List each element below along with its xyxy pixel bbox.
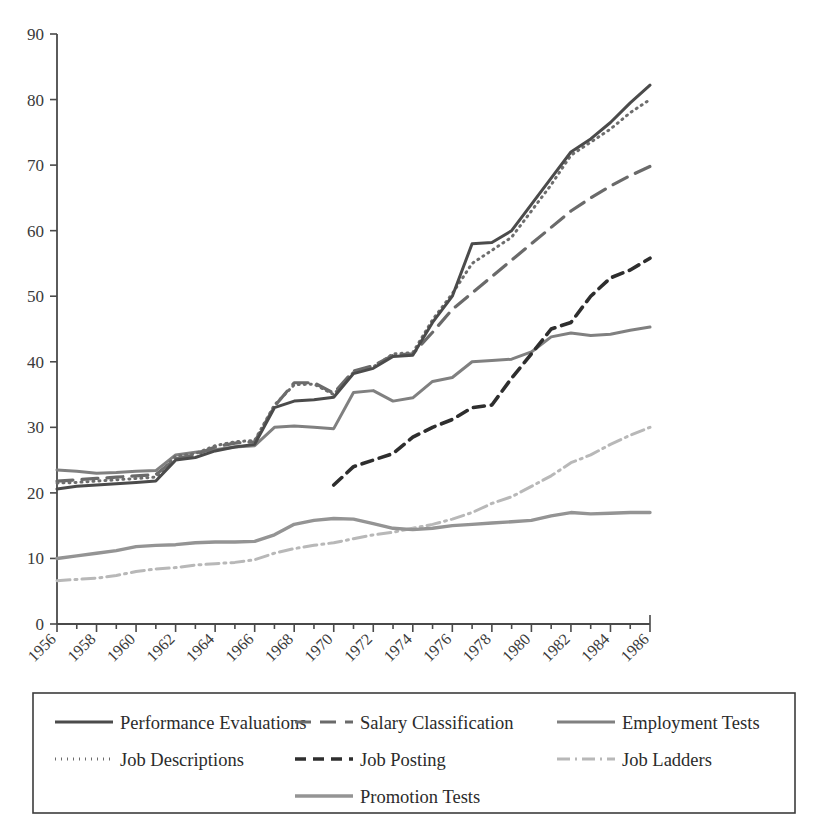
legend-label: Employment Tests (622, 713, 760, 733)
y-axis-tick-label: 30 (27, 418, 44, 437)
legend-label: Job Posting (360, 750, 446, 770)
chart-background (0, 0, 828, 828)
y-axis-tick-label: 50 (27, 287, 44, 306)
y-axis-tick-label: 0 (36, 615, 45, 634)
y-axis-tick-label: 80 (27, 91, 44, 110)
y-axis-tick-label: 40 (27, 353, 44, 372)
legend-label: Job Descriptions (120, 750, 244, 770)
chart-canvas: 0102030405060708090 19561958196019621964… (0, 0, 828, 828)
y-axis-tick-label: 90 (27, 25, 44, 44)
y-axis-tick-label: 20 (27, 484, 44, 503)
y-axis-tick-label: 10 (27, 549, 44, 568)
legend-label: Promotion Tests (360, 787, 480, 807)
legend-label: Salary Classification (360, 713, 514, 733)
y-axis-tick-label: 60 (27, 222, 44, 241)
legend-label: Job Ladders (622, 750, 712, 770)
line-chart-figure: 0102030405060708090 19561958196019621964… (0, 0, 828, 828)
y-axis-tick-label: 70 (27, 156, 44, 175)
legend-label: Performance Evaluations (120, 713, 306, 733)
